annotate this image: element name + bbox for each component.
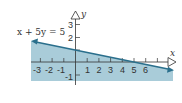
x-tick-label: 4 bbox=[120, 65, 125, 75]
x-axis-label: x bbox=[170, 48, 175, 58]
x-tick-label: 3 bbox=[108, 65, 113, 75]
x-tick-label: -2 bbox=[45, 65, 53, 75]
equation-label: x + 5y = 5 bbox=[17, 27, 65, 37]
y-tick-label: 2 bbox=[68, 33, 73, 43]
x-axis-arrow-icon bbox=[168, 58, 176, 67]
y-tick-label: -1 bbox=[65, 72, 73, 82]
y-axis-arrow-icon bbox=[71, 11, 80, 19]
x-tick-label: -3 bbox=[33, 65, 41, 75]
x-tick-label: 2 bbox=[97, 65, 102, 75]
x-tick-label: -1 bbox=[57, 65, 65, 75]
y-tick-label: 3 bbox=[68, 20, 73, 30]
inequality-graph: x y -3 -2 -1 1 2 3 4 5 6 3 2 -1 x + 5y =… bbox=[0, 0, 182, 103]
x-tick-label: 6 bbox=[143, 65, 148, 75]
y-axis-label: y bbox=[80, 9, 87, 19]
x-tick-label: 1 bbox=[85, 65, 90, 75]
x-tick-label: 5 bbox=[132, 65, 137, 75]
